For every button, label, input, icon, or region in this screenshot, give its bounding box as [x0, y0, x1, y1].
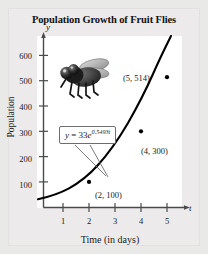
point-label-4-300: (4, 300): [141, 146, 168, 156]
data-point-5-514: [165, 75, 169, 79]
x-axis-arrow: [184, 205, 190, 210]
equation-lhs: y: [65, 130, 69, 140]
fruit-fly-population-figure: Population Growth of Fruit Flies 600 500…: [0, 0, 208, 254]
fly-eye-highlight-left: [63, 69, 66, 72]
y-axis-arrow: [41, 32, 46, 38]
point-label-5-514: (5, 514): [123, 73, 150, 83]
fruit-fly-icon: [58, 55, 112, 101]
data-point-4-300: [139, 129, 143, 133]
fly-eye-highlight-right: [71, 66, 73, 68]
equation-exponent: 0.5493t: [92, 128, 111, 135]
equation-equals: =: [71, 130, 76, 140]
point-label-2-100: (2, 100): [95, 190, 122, 200]
fly-eye-right: [68, 64, 79, 75]
data-point-2-100: [87, 180, 91, 184]
equation-coefficient: 33: [79, 130, 88, 140]
equation-callout: y = 33e0.5493t: [59, 126, 116, 144]
